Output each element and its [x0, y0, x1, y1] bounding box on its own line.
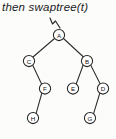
tree-nodes: ACBFEDHG [23, 29, 108, 123]
tree-node-g: G [84, 112, 95, 123]
node-label-b: B [85, 58, 89, 65]
pointer-arrow-stroke [50, 18, 60, 28]
tree-edge-c-f [33, 65, 42, 85]
t-pointer-arrow [50, 18, 60, 28]
tree-node-a: A [53, 29, 64, 40]
node-label-f: F [43, 85, 47, 92]
tree-edge-b-e [76, 65, 83, 85]
tree-node-b: B [81, 55, 92, 66]
node-label-g: G [88, 115, 93, 122]
tree-node-e: E [67, 83, 78, 94]
tree-edge-a-b [64, 39, 84, 58]
node-label-c: C [27, 58, 32, 65]
node-label-e: E [71, 85, 75, 92]
tree-edge-f-h [36, 93, 42, 114]
tree-edge-b-d [91, 65, 101, 85]
tree-node-h: H [27, 112, 38, 123]
tree-node-d: D [97, 83, 108, 94]
tree-diagram-figure: then swaptree(t) ACBFEDHG [0, 0, 116, 139]
tree-edge-d-g [94, 93, 101, 114]
tree-edges [33, 39, 101, 114]
tree-node-f: F [39, 83, 50, 94]
node-label-h: H [31, 115, 35, 122]
binary-tree-graphic: ACBFEDHG [0, 0, 116, 139]
tree-edge-a-c [33, 39, 55, 58]
node-label-d: D [101, 85, 106, 92]
tree-node-c: C [23, 55, 34, 66]
